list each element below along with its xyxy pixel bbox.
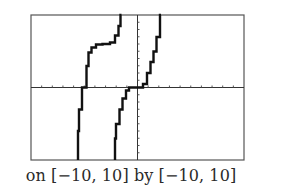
calculator-graph bbox=[0, 0, 297, 168]
window-caption: on [−10, 10] by [−10, 10] bbox=[0, 166, 262, 185]
